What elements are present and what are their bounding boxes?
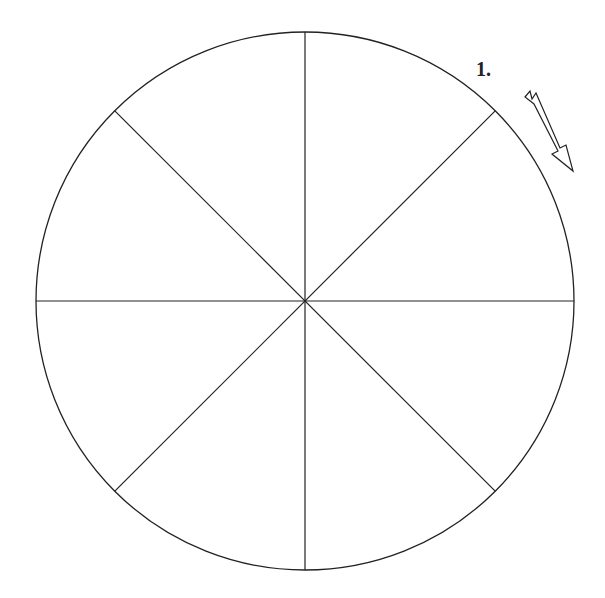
divided-circle-diagram: 1. bbox=[0, 0, 605, 598]
clockwise-arrow-icon bbox=[525, 91, 573, 171]
segment-label-1: 1. bbox=[476, 58, 491, 80]
